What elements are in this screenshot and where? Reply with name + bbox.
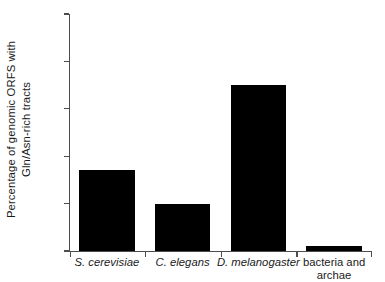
y-axis-line — [69, 14, 70, 251]
bar — [79, 170, 135, 251]
y-axis-title-line-2: Gln/Asn-rich tracts — [19, 40, 34, 217]
y-axis-title-line-1: Percentage of genomic ORFS with — [5, 40, 20, 217]
x-axis-category-label: bacteria andarchae — [286, 256, 381, 282]
y-axis-tick — [64, 61, 70, 62]
y-axis-title: Percentage of genomic ORFS with Gln/Asn-… — [0, 0, 38, 258]
bar — [306, 246, 362, 251]
bar-chart-figure: Percentage of genomic ORFS with Gln/Asn-… — [0, 0, 385, 282]
plot-area: 012345 — [69, 14, 372, 251]
x-axis-label-line: bacteria and — [286, 256, 381, 269]
x-axis-label-line: archae — [286, 269, 381, 282]
y-axis-tick — [64, 108, 70, 109]
y-axis-tick — [64, 156, 70, 157]
x-axis-labels: S. cerevisiaeC. elegansD. melanogasterba… — [69, 256, 372, 282]
y-axis-tick — [64, 13, 70, 14]
y-axis-tick — [64, 250, 70, 251]
y-axis-tick — [64, 203, 70, 204]
bar — [155, 204, 211, 251]
bar — [231, 85, 287, 251]
